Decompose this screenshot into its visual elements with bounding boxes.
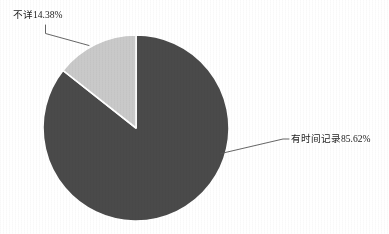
pie-chart-canvas: [0, 0, 389, 234]
leader-line-recorded: [221, 139, 289, 154]
leader-line-unknown: [46, 25, 90, 46]
pie-chart-figure: 不详14.38% 有时间记录85.62%: [0, 0, 389, 234]
pie-label-recorded: 有时间记录85.62%: [291, 133, 371, 145]
pie-label-unknown: 不详14.38%: [13, 9, 63, 21]
